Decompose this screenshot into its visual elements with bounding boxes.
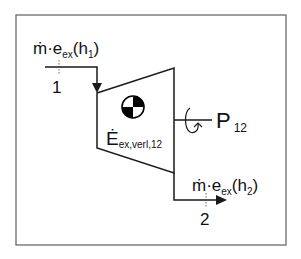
outlet-stream: ṁ·eex(h2) 2 [174,173,258,229]
center-of-mass-icon [122,96,144,118]
inlet-label: ṁ·eex(h1) [33,39,99,60]
exergy-loss-label: Ėex,verl,12 [106,128,162,150]
power-shaft: P12 [174,108,247,135]
outlet-state-number: 2 [200,210,209,229]
outlet-label: ṁ·eex(h2) [192,176,258,197]
power-label: P12 [216,108,247,135]
turbine-exergy-diagram: ṁ·eex(h1) 1 Ėex,verl,12 P12 ṁ·eex(h2) 2 [0,0,301,259]
inlet-state-number: 1 [52,78,61,97]
turbine-body [97,68,174,173]
inlet-stream: ṁ·eex(h1) 1 [33,39,102,97]
